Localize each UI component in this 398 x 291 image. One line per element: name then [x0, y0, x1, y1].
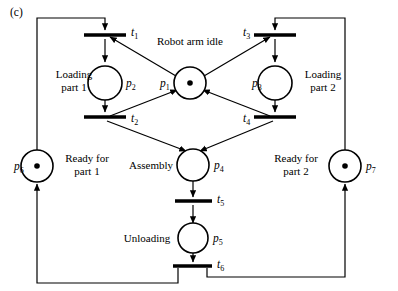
arc-t2-to-p1 [110, 90, 177, 116]
place-name-p4: Assembly [129, 159, 174, 171]
place-p5[interactable]: p5 Unloading [124, 223, 223, 253]
place-name-p5: Unloading [124, 232, 171, 244]
place-circle-p3[interactable] [258, 66, 292, 100]
place-p7[interactable]: p7 Ready forpart 2 [274, 150, 376, 182]
place-p2[interactable]: p2 Loadingpart 1 [56, 66, 136, 100]
place-p4[interactable]: p4 Assembly [129, 149, 224, 181]
place-name-p3: Loadingpart 2 [305, 68, 342, 93]
transition-label-t6: t6 [217, 258, 224, 273]
figure-container: t1 t2 t3 t4 t5 t6 [0, 0, 398, 291]
arc-t4-to-p1 [203, 90, 270, 116]
token-dot-p6 [34, 163, 40, 169]
transition-t1[interactable]: t1 [84, 26, 138, 41]
transition-label-t3: t3 [243, 26, 250, 41]
place-p3[interactable]: p3 Loadingpart 2 [251, 66, 342, 100]
transition-label-t1: t1 [131, 26, 138, 41]
place-name-p1: Robot arm idle [157, 35, 223, 47]
place-label-p5: p5 [212, 232, 223, 247]
place-label-p7: p7 [365, 160, 376, 175]
transition-label-t5: t5 [217, 193, 224, 208]
transition-label-t2: t2 [131, 112, 138, 127]
place-p1[interactable]: p1 Robot arm idle [157, 35, 223, 99]
transition-t3[interactable]: t3 [243, 26, 296, 41]
token-dot-p1 [187, 80, 193, 86]
transition-t6[interactable]: t6 [173, 258, 224, 273]
place-p6[interactable]: p6 Ready forpart 1 [13, 150, 109, 182]
petri-net-diagram: t1 t2 t3 t4 t5 t6 [0, 0, 398, 291]
arc-t2-to-p4 [107, 121, 186, 151]
token-dot-p7 [342, 163, 348, 169]
place-circle-p4[interactable] [177, 149, 209, 181]
place-name-p7: Ready forpart 2 [274, 152, 318, 177]
transition-t2[interactable]: t2 [84, 112, 138, 127]
place-name-p2: Loadingpart 1 [56, 68, 93, 93]
place-label-p4: p4 [213, 159, 224, 174]
transition-t5[interactable]: t5 [175, 193, 224, 208]
place-name-p6: Ready forpart 1 [65, 152, 109, 177]
transition-t4[interactable]: t4 [243, 112, 296, 127]
place-circle-p2[interactable] [88, 66, 122, 100]
panel-label: (c) [10, 6, 23, 19]
place-label-p2: p2 [125, 77, 136, 92]
transition-label-t4: t4 [243, 112, 250, 127]
place-label-p1: p1 [159, 77, 170, 92]
arc-t4-to-p4 [200, 121, 273, 151]
arc-t6-to-p7 [207, 184, 345, 277]
place-circle-p5[interactable] [178, 223, 208, 253]
places-group: p1 Robot arm idle p2 Loadingpart 1 p3 Lo… [13, 35, 376, 253]
